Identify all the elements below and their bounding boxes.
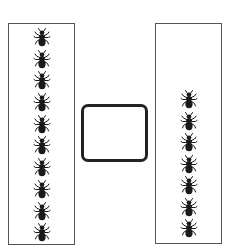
- right-ant-group-box: [155, 23, 222, 244]
- ant-icon: [180, 90, 198, 110]
- ant-icon: [180, 198, 198, 218]
- right-ant-stack: [156, 90, 221, 241]
- ant-icon: [33, 136, 51, 156]
- ant-icon: [180, 176, 198, 196]
- left-ant-stack: [9, 28, 74, 245]
- ant-icon: [33, 158, 51, 178]
- comparison-answer-box[interactable]: [81, 104, 148, 162]
- ant-icon: [33, 223, 51, 243]
- ant-icon: [33, 28, 51, 48]
- ant-icon: [180, 155, 198, 175]
- ant-icon: [33, 180, 51, 200]
- ant-icon: [33, 93, 51, 113]
- left-ant-group-box: [8, 23, 75, 245]
- ant-icon: [33, 202, 51, 222]
- ant-icon: [180, 133, 198, 153]
- ant-icon: [33, 71, 51, 91]
- ant-icon: [180, 219, 198, 239]
- ant-icon: [33, 115, 51, 135]
- ant-icon: [180, 112, 198, 132]
- ant-icon: [33, 50, 51, 70]
